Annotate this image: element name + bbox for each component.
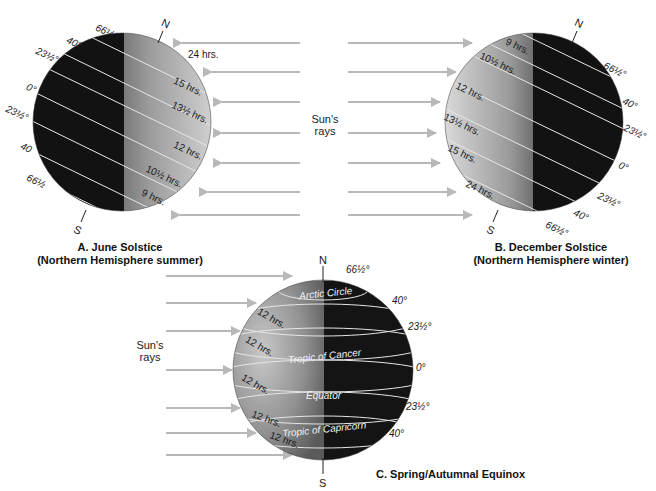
svg-text:23½°: 23½° bbox=[595, 190, 622, 210]
caption-june-solstice: A. June Solstice (Northern Hemisphere su… bbox=[20, 241, 220, 267]
svg-text:40°: 40° bbox=[572, 207, 590, 223]
svg-text:0°: 0° bbox=[416, 362, 426, 373]
svg-text:23½°: 23½° bbox=[621, 122, 648, 142]
south-pole-label: S bbox=[485, 223, 497, 237]
svg-text:40: 40 bbox=[19, 140, 34, 155]
sun-rays-label-line2: rays bbox=[300, 125, 350, 137]
caption-december-solstice: B. December Solstice (Northern Hemispher… bbox=[446, 241, 656, 267]
sun-rays-label-line1: Sun's bbox=[300, 113, 350, 125]
svg-text:Equator: Equator bbox=[306, 390, 342, 401]
caption-title: A. June Solstice bbox=[20, 241, 220, 254]
svg-text:23½°: 23½° bbox=[3, 103, 30, 123]
svg-text:40°: 40° bbox=[621, 95, 639, 111]
axis-north-tick bbox=[158, 31, 163, 43]
caption-subtitle: (Northern Hemisphere summer) bbox=[20, 254, 220, 267]
svg-text:40°: 40° bbox=[392, 295, 407, 306]
axis-north-tick bbox=[572, 31, 577, 43]
svg-text:40°: 40° bbox=[389, 428, 404, 439]
svg-text:0°: 0° bbox=[617, 159, 630, 173]
caption-equinox: C. Spring/Autumnal Equinox bbox=[376, 468, 576, 481]
svg-text:23½°: 23½° bbox=[33, 45, 60, 65]
caption-title: C. Spring/Autumnal Equinox bbox=[376, 468, 576, 481]
caption-title: B. December Solstice bbox=[446, 241, 656, 254]
svg-text:66½°: 66½° bbox=[346, 264, 369, 275]
globe-december-solstice: N S 66½° 40° 23½° 0° 23½° 40° 66½° 9 hrs… bbox=[440, 0, 648, 256]
north-pole-label: N bbox=[319, 254, 327, 266]
south-pole-label: S bbox=[72, 223, 84, 237]
svg-text:23½°: 23½° bbox=[405, 401, 429, 412]
south-pole-label: S bbox=[319, 477, 326, 489]
svg-text:66½: 66½ bbox=[25, 172, 48, 190]
north-pole-label: N bbox=[573, 16, 585, 30]
sun-rays-label-line1: Sun's bbox=[130, 339, 170, 351]
svg-text:66½°: 66½° bbox=[544, 219, 570, 239]
globe-equinox: N S 66½° 40° 23½° 0° 23½° 40° Arctic Cir… bbox=[213, 254, 433, 489]
axis-south-tick bbox=[493, 210, 498, 222]
svg-text:24 hrs.: 24 hrs. bbox=[188, 49, 219, 60]
sun-rays-label-bottom: Sun's rays bbox=[130, 339, 170, 363]
globe-june-solstice: N S 66½° 40° 23½° 0° 23½° 40 66½ 24 hrs.… bbox=[3, 16, 220, 238]
svg-text:23½°: 23½° bbox=[407, 321, 431, 332]
north-pole-label: N bbox=[160, 16, 172, 30]
caption-subtitle: (Northern Hemisphere winter) bbox=[446, 254, 656, 267]
sun-rays-label-line2: rays bbox=[130, 351, 170, 363]
svg-text:0°: 0° bbox=[25, 81, 38, 95]
sun-rays-label-top: Sun's rays bbox=[300, 113, 350, 137]
axis-south-tick bbox=[81, 210, 86, 222]
